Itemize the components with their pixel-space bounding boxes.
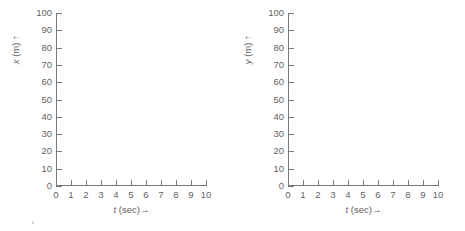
scan-artifact-speck bbox=[32, 221, 34, 224]
y-tick-label-right: 90 bbox=[273, 26, 284, 36]
y-tick-left bbox=[57, 117, 62, 118]
x-tick-label-right: 10 bbox=[433, 190, 444, 200]
x-tick-label-left: 7 bbox=[158, 190, 163, 200]
x-axis-line-left bbox=[56, 185, 207, 186]
x-tick-label-right: 0 bbox=[285, 190, 290, 200]
y-axis-title-right: y (m) ↑ bbox=[243, 50, 253, 64]
x-tick-left bbox=[116, 180, 117, 185]
x-tick-right bbox=[438, 180, 439, 185]
y-tick-label-left: 0 bbox=[47, 181, 52, 191]
x-axis-unit-left: (sec) bbox=[119, 204, 140, 215]
x-tick-right bbox=[333, 180, 334, 185]
y-tick-left bbox=[57, 151, 62, 152]
y-tick-label-left: 30 bbox=[41, 129, 52, 139]
y-axis-title-left: x (m) ↑ bbox=[11, 50, 21, 64]
x-tick-label-right: 5 bbox=[360, 190, 365, 200]
x-axis-line-right bbox=[288, 185, 439, 186]
x-axis-title-right: t (sec)→ bbox=[288, 204, 439, 215]
y-tick-right bbox=[289, 100, 294, 101]
x-tick-left bbox=[101, 180, 102, 185]
y-tick-left bbox=[57, 134, 62, 135]
y-axis-variable-right: y bbox=[242, 59, 253, 64]
y-tick-right bbox=[289, 186, 294, 187]
x-tick-label-left: 1 bbox=[68, 190, 73, 200]
y-axis-arrow-left: ↑ bbox=[10, 35, 21, 40]
x-tick-label-right: 9 bbox=[420, 190, 425, 200]
x-tick-label-left: 5 bbox=[128, 190, 133, 200]
x-axis-title-left: t (sec)→ bbox=[56, 204, 207, 215]
y-tick-left bbox=[57, 100, 62, 101]
x-axis-arrow-left: → bbox=[140, 204, 150, 215]
x-tick-right bbox=[348, 180, 349, 185]
y-axis-variable-left: x bbox=[10, 59, 21, 64]
x-tick-right bbox=[318, 180, 319, 185]
chart-panel-y-vs-t: 0102030405060708090100012345678910 y (m)… bbox=[232, 0, 464, 231]
plot-area-right: 0102030405060708090100012345678910 bbox=[288, 13, 438, 186]
y-tick-label-left: 20 bbox=[41, 147, 52, 157]
x-tick-label-left: 4 bbox=[113, 190, 118, 200]
x-tick-label-right: 8 bbox=[405, 190, 410, 200]
x-tick-right bbox=[393, 180, 394, 185]
x-tick-label-left: 10 bbox=[201, 190, 212, 200]
x-tick-left bbox=[71, 180, 72, 185]
x-tick-left bbox=[131, 180, 132, 185]
x-tick-label-right: 6 bbox=[375, 190, 380, 200]
y-tick-left bbox=[57, 13, 62, 14]
y-tick-label-left: 40 bbox=[41, 112, 52, 122]
y-tick-label-left: 100 bbox=[36, 8, 52, 18]
y-tick-label-right: 80 bbox=[273, 43, 284, 53]
y-tick-right bbox=[289, 151, 294, 152]
x-tick-left bbox=[86, 180, 87, 185]
y-tick-label-left: 50 bbox=[41, 95, 52, 105]
y-tick-label-right: 30 bbox=[273, 129, 284, 139]
x-tick-label-right: 3 bbox=[330, 190, 335, 200]
y-axis-unit-left: (m) bbox=[10, 43, 21, 57]
y-axis-arrow-right: ↑ bbox=[242, 35, 253, 40]
chart-panel-x-vs-t: 0102030405060708090100012345678910 x (m)… bbox=[0, 0, 232, 231]
y-tick-label-right: 20 bbox=[273, 147, 284, 157]
x-tick-label-right: 7 bbox=[390, 190, 395, 200]
y-tick-left bbox=[57, 169, 62, 170]
plot-area-left: 0102030405060708090100012345678910 bbox=[56, 13, 206, 186]
x-axis-unit-right: (sec) bbox=[351, 204, 372, 215]
y-tick-label-right: 10 bbox=[273, 164, 284, 174]
y-tick-label-right: 40 bbox=[273, 112, 284, 122]
y-tick-left bbox=[57, 82, 62, 83]
y-tick-left bbox=[57, 48, 62, 49]
figure-two-empty-graphs: 0102030405060708090100012345678910 x (m)… bbox=[0, 0, 465, 231]
x-tick-left bbox=[146, 180, 147, 185]
x-tick-label-right: 4 bbox=[345, 190, 350, 200]
x-tick-left bbox=[176, 180, 177, 185]
y-axis-unit-right: (m) bbox=[242, 43, 253, 57]
x-tick-label-left: 3 bbox=[98, 190, 103, 200]
x-tick-right bbox=[378, 180, 379, 185]
y-tick-label-left: 80 bbox=[41, 43, 52, 53]
y-tick-label-left: 10 bbox=[41, 164, 52, 174]
x-axis-arrow-right: → bbox=[372, 204, 382, 215]
x-tick-left bbox=[206, 180, 207, 185]
y-tick-label-left: 70 bbox=[41, 60, 52, 70]
x-tick-right bbox=[363, 180, 364, 185]
x-tick-left bbox=[161, 180, 162, 185]
x-tick-label-right: 1 bbox=[300, 190, 305, 200]
x-tick-label-left: 8 bbox=[173, 190, 178, 200]
y-tick-label-left: 60 bbox=[41, 77, 52, 87]
x-tick-label-left: 6 bbox=[143, 190, 148, 200]
y-tick-right bbox=[289, 134, 294, 135]
x-tick-label-left: 9 bbox=[188, 190, 193, 200]
y-tick-left bbox=[57, 65, 62, 66]
y-tick-label-right: 60 bbox=[273, 77, 284, 87]
y-tick-right bbox=[289, 169, 294, 170]
y-tick-left bbox=[57, 30, 62, 31]
y-tick-right bbox=[289, 13, 294, 14]
x-tick-label-right: 2 bbox=[315, 190, 320, 200]
y-tick-label-right: 100 bbox=[268, 8, 284, 18]
y-tick-label-right: 50 bbox=[273, 95, 284, 105]
y-tick-right bbox=[289, 82, 294, 83]
x-tick-left bbox=[191, 180, 192, 185]
y-tick-right bbox=[289, 30, 294, 31]
x-tick-right bbox=[303, 180, 304, 185]
y-tick-right bbox=[289, 48, 294, 49]
y-tick-label-right: 0 bbox=[279, 181, 284, 191]
y-tick-right bbox=[289, 117, 294, 118]
